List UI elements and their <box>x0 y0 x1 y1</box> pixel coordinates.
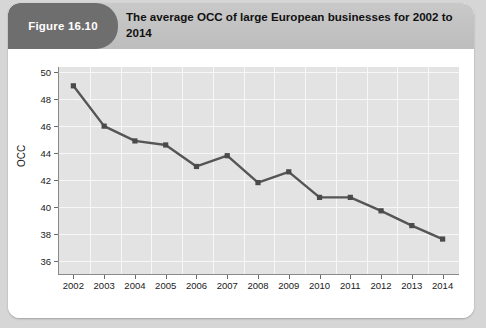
x-tick-mark <box>258 275 259 279</box>
x-tick-mark <box>443 275 444 279</box>
figure-title: The average OCC of large European busine… <box>126 9 460 40</box>
data-point-marker <box>409 223 414 228</box>
data-point-marker <box>348 195 353 200</box>
x-tick-label: 2013 <box>401 280 422 291</box>
figure-body: OCC 3638404244464850 2002200320042005200… <box>8 49 474 318</box>
x-tick-label: 2008 <box>247 280 268 291</box>
x-tick-label: 2004 <box>124 280 145 291</box>
data-point-marker <box>440 236 445 241</box>
y-tick-label: 36 <box>31 255 51 266</box>
data-series-occ <box>58 67 458 274</box>
x-tick-mark <box>289 275 290 279</box>
x-tick-mark <box>320 275 321 279</box>
y-tick-label: 48 <box>31 94 51 105</box>
y-tick-label: 50 <box>31 67 51 78</box>
x-tick-label: 2012 <box>370 280 391 291</box>
data-point-marker <box>71 83 76 88</box>
figure-card: Figure 16.10 The average OCC of large Eu… <box>8 3 474 318</box>
x-tick-mark <box>381 275 382 279</box>
series-line <box>73 86 442 239</box>
x-tick-mark <box>350 275 351 279</box>
data-point-marker <box>255 180 260 185</box>
y-tick-label: 40 <box>31 201 51 212</box>
data-point-marker <box>102 124 107 129</box>
x-tick-label: 2007 <box>217 280 238 291</box>
line-chart: OCC 3638404244464850 2002200320042005200… <box>8 49 474 318</box>
data-point-marker <box>317 195 322 200</box>
data-point-marker <box>378 208 383 213</box>
figure-header: Figure 16.10 The average OCC of large Eu… <box>8 3 474 49</box>
data-point-marker <box>194 164 199 169</box>
x-tick-label: 2010 <box>309 280 330 291</box>
data-point-marker <box>286 169 291 174</box>
x-tick-label: 2014 <box>432 280 453 291</box>
x-tick-label: 2002 <box>63 280 84 291</box>
x-tick-mark <box>73 275 74 279</box>
figure-number-badge: Figure 16.10 <box>8 3 118 49</box>
x-tick-mark <box>196 275 197 279</box>
x-tick-label: 2006 <box>186 280 207 291</box>
data-point-marker <box>132 138 137 143</box>
x-tick-label: 2005 <box>155 280 176 291</box>
x-tick-mark <box>104 275 105 279</box>
x-tick-mark <box>135 275 136 279</box>
x-tick-mark <box>412 275 413 279</box>
y-axis-label: OCC <box>16 145 27 167</box>
x-tick-mark <box>227 275 228 279</box>
x-tick-label: 2009 <box>278 280 299 291</box>
x-tick-mark <box>166 275 167 279</box>
y-tick-label: 46 <box>31 121 51 132</box>
y-tick-label: 42 <box>31 174 51 185</box>
y-tick-label: 44 <box>31 148 51 159</box>
data-point-marker <box>163 142 168 147</box>
y-tick-label: 38 <box>31 228 51 239</box>
x-tick-label: 2011 <box>340 280 360 291</box>
data-point-marker <box>225 153 230 158</box>
x-tick-label: 2003 <box>94 280 115 291</box>
